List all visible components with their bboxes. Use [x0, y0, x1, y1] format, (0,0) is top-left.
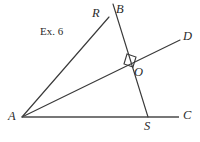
point-label-a: A: [8, 110, 16, 123]
segment-a-r: [22, 17, 109, 117]
point-label-s: S: [144, 120, 150, 133]
point-label-c: C: [183, 109, 191, 122]
segment-b-s: [113, 4, 148, 117]
point-label-b: B: [116, 3, 124, 16]
point-label-r: R: [92, 7, 100, 20]
figure-canvas: [0, 0, 200, 142]
segment-a-d: [22, 40, 180, 117]
point-label-d: D: [183, 30, 192, 43]
geometry-figure: R B D O A S C Ex. 6: [0, 0, 200, 142]
point-label-o: O: [134, 66, 143, 79]
figure-caption: Ex. 6: [40, 26, 63, 37]
